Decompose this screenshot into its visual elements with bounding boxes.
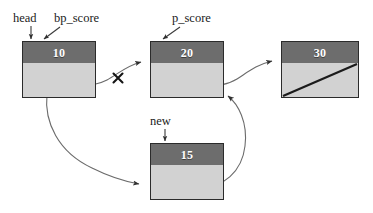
pointer-label-bp-score: bp_score [54,12,99,25]
list-node-15: 15 [150,143,224,200]
list-node-15-next-field [151,165,223,199]
list-node-30: 30 [281,41,359,98]
list-node-30-value: 30 [282,42,358,64]
list-node-10-next-field [23,63,95,97]
severed-x-marker [114,74,123,83]
edge-node10-to-node15 [47,94,139,184]
edge-bpscore-to-node10 [44,27,60,39]
pointer-label-new: new [150,115,171,128]
linked-list-diagram: 10 20 30 15 head bp_score p_score new [0,0,373,213]
list-node-30-next-field [282,63,358,97]
list-node-10: 10 [22,41,96,98]
null-pointer-slash-icon [282,63,358,97]
pointer-label-head: head [13,12,37,25]
list-node-20-next-field [151,63,223,97]
pointer-label-p-score: p_score [172,12,211,25]
edge-pscore-to-node20 [163,27,180,39]
list-node-20: 20 [150,41,224,98]
list-node-10-value: 10 [23,42,95,64]
list-node-20-value: 20 [151,42,223,64]
list-node-15-value: 15 [151,144,223,166]
